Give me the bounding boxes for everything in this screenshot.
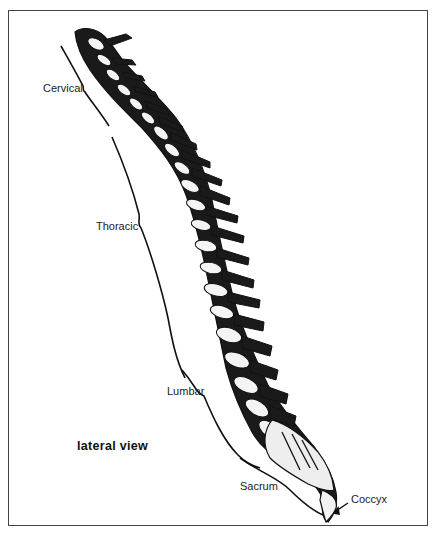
spine-illustration — [0, 0, 441, 534]
label-cervical: Cervical — [43, 82, 83, 94]
view-title: lateral view — [77, 439, 148, 453]
label-thoracic: Thoracic — [96, 220, 138, 232]
label-sacrum: Sacrum — [240, 480, 278, 492]
label-coccyx: Coccyx — [351, 493, 387, 505]
thoracic-bracket — [112, 137, 185, 378]
label-lumbar: Lumbar — [167, 385, 204, 397]
